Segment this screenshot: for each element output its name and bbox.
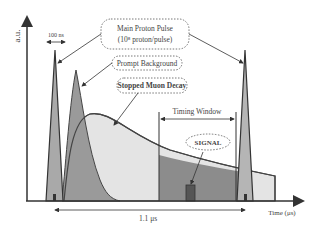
main-proton-pulse-1: [46, 50, 63, 201]
main-pulse-pointer-2: [189, 34, 243, 63]
pulse-width-label: 100 ns: [48, 32, 65, 38]
muon-timing-diagram: Timing Window SIGNAL a.u. Time (μs) 100 …: [0, 0, 324, 231]
prompt-background-label: Prompt Background: [117, 59, 178, 68]
main-pulse-label-line1: Main Proton Pulse: [117, 24, 174, 33]
stopped-muon-decay-label: Stopped Muon Decay: [118, 81, 187, 90]
y-axis-label: a.u.: [12, 30, 22, 43]
main-pulse-pointer-1: [58, 34, 101, 63]
signal-label: SIGNAL: [195, 139, 222, 147]
stopped-muon-pointer: [114, 93, 138, 125]
x-axis-label: Time (μs): [268, 209, 296, 217]
signal-bar: [186, 185, 195, 201]
pulse-marker-2: [244, 194, 247, 201]
prompt-background-pointer: [82, 63, 112, 86]
period-label: 1.1 μs: [139, 214, 157, 223]
pulse-marker-1: [53, 194, 56, 201]
main-proton-pulse-2: [237, 50, 253, 201]
main-pulse-label-line2: (10⁸ proton/pulse): [118, 35, 173, 44]
timing-window-label: Timing Window: [172, 107, 222, 116]
